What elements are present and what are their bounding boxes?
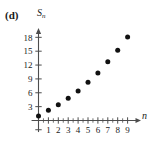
- x-tick-label: 6: [96, 125, 101, 135]
- data-point: [115, 48, 120, 53]
- x-tick-label: 4: [76, 125, 81, 135]
- data-point: [95, 70, 100, 75]
- x-tick-label: 5: [86, 125, 91, 135]
- data-point: [46, 108, 51, 113]
- figure-panel: (d) Sn n 369121518123456789: [0, 0, 155, 151]
- data-point: [56, 102, 61, 107]
- data-point: [105, 59, 110, 64]
- y-axis-arrow: [36, 28, 41, 34]
- x-tick-label: 1: [46, 125, 51, 135]
- y-tick-label: 6: [28, 88, 33, 98]
- y-tick-label: 12: [24, 60, 33, 70]
- data-point: [66, 96, 71, 101]
- data-point-group: [36, 34, 130, 118]
- scatter-plot: 369121518123456789: [0, 0, 155, 151]
- data-point: [86, 80, 91, 85]
- y-tick-label: 9: [28, 74, 33, 84]
- x-tick-label: 2: [56, 125, 61, 135]
- data-point: [36, 113, 41, 118]
- y-tick-label: 3: [28, 102, 33, 112]
- data-point: [125, 34, 130, 39]
- x-tick-label: 3: [66, 125, 71, 135]
- x-tick-group: 123456789: [43, 117, 130, 134]
- x-tick-label: 9: [125, 125, 130, 135]
- y-tick-label: 15: [24, 46, 34, 56]
- x-tick-label: 8: [115, 125, 120, 135]
- axis-group: [32, 28, 141, 132]
- x-tick-label: 7: [106, 125, 111, 135]
- x-axis-arrow: [135, 118, 141, 123]
- data-point: [76, 88, 81, 93]
- y-tick-label: 18: [24, 33, 34, 43]
